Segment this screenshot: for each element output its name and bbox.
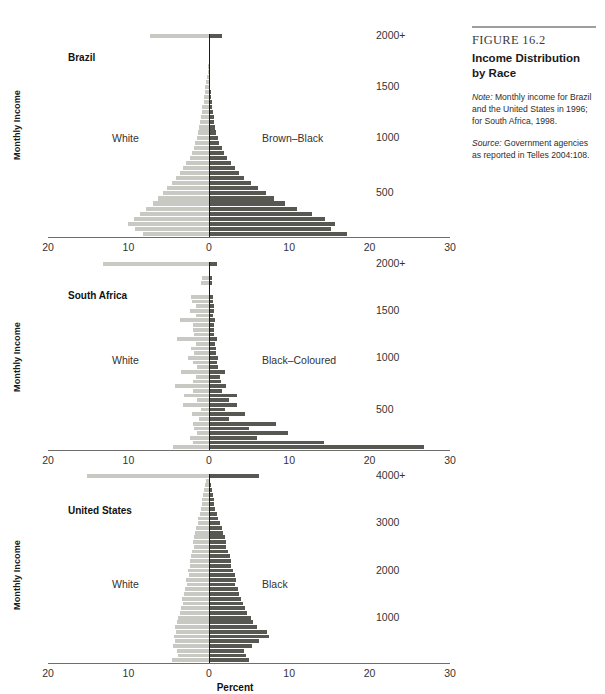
income-tick-label: 500: [376, 186, 394, 198]
bar-left: [183, 166, 209, 170]
bar-right: [209, 232, 347, 236]
bar-left: [192, 412, 209, 416]
bar-left: [194, 545, 209, 549]
bar-left: [192, 151, 209, 155]
bar-left: [183, 602, 209, 606]
income-tick-label: 1500: [376, 304, 399, 316]
bar-left: [191, 295, 209, 299]
bar-right: [209, 654, 246, 658]
bar-left: [199, 417, 209, 421]
bar-left: [175, 639, 209, 643]
bar-left: [188, 356, 209, 360]
bar-left: [196, 342, 209, 346]
bar-right: [209, 441, 324, 445]
bar-left: [190, 436, 209, 440]
bar-right: [209, 181, 251, 185]
bar-right: [209, 375, 220, 379]
bar-left: [193, 422, 209, 426]
bar-left: [193, 361, 209, 365]
bar-right: [209, 356, 218, 360]
bar-right: [209, 347, 216, 351]
bar-right: [209, 217, 326, 221]
bar-left: [180, 611, 209, 615]
zero-axis-line: [209, 262, 210, 450]
bar-left: [150, 34, 209, 38]
figure-number: FIGURE 16.2: [472, 33, 596, 49]
bar-right: [209, 389, 222, 393]
bar-right: [209, 639, 259, 643]
bar-left: [196, 304, 209, 308]
panel-country-title: United States: [68, 505, 132, 516]
bar-right: [209, 136, 218, 140]
bar-right: [209, 370, 225, 374]
bar-left: [198, 521, 209, 525]
bar-left: [167, 186, 209, 190]
bar-left: [185, 587, 209, 591]
y-axis-title: Monthly Income: [12, 322, 22, 392]
x-tick-label: 0: [206, 667, 212, 679]
bar-right: [209, 34, 222, 38]
income-tick-label: 2000+: [376, 257, 406, 269]
bar-right: [209, 427, 249, 431]
bar-right: [209, 161, 231, 165]
bar-right: [209, 630, 267, 634]
series-label-left: White: [112, 578, 139, 590]
page-text-bleed: [150, 0, 480, 6]
bar-right: [209, 578, 236, 582]
bar-left: [189, 573, 209, 577]
bar-right: [209, 201, 285, 205]
bar-left: [191, 347, 209, 351]
bar-right: [209, 559, 232, 563]
bar-left: [193, 323, 209, 327]
bar-right: [209, 151, 224, 155]
income-tick-label: 500: [376, 403, 394, 415]
bar-left: [197, 365, 209, 369]
income-tick-label: 2000+: [376, 29, 406, 41]
bar-right: [209, 227, 331, 231]
bar-left: [180, 171, 209, 175]
panel-country-title: Brazil: [68, 52, 95, 63]
bar-left: [103, 262, 209, 266]
series-label-right: Black: [262, 578, 288, 590]
bar-right: [209, 602, 243, 606]
bar-right: [209, 616, 251, 620]
bar-left: [194, 351, 208, 355]
bar-left: [200, 512, 209, 516]
bar-left: [188, 569, 209, 573]
bar-left: [87, 474, 209, 478]
bar-left: [193, 380, 209, 384]
bar-left: [201, 115, 209, 119]
bar-left: [174, 635, 209, 639]
bar-left: [173, 644, 208, 648]
bar-right: [209, 212, 312, 216]
bar-left: [195, 141, 209, 145]
panel-country-title: South Africa: [68, 290, 127, 301]
bar-right: [209, 644, 252, 648]
income-tick-label: 1000: [376, 131, 399, 143]
bar-left: [181, 370, 209, 374]
bar-left: [180, 318, 209, 322]
bar-right: [209, 156, 227, 160]
bar-left: [198, 517, 208, 521]
bar-right: [209, 222, 335, 226]
x-axis-line: [48, 663, 450, 664]
income-tick-label: 1000: [376, 351, 399, 363]
bar-left: [191, 554, 209, 558]
zero-axis-line: [209, 34, 210, 237]
zero-axis-line: [209, 474, 210, 663]
bar-right: [209, 526, 222, 530]
bar-left: [175, 384, 209, 388]
bar-left: [175, 625, 209, 629]
figure-container: FIGURE 16.2 Income Distribution by Race …: [0, 0, 605, 694]
bar-right: [209, 573, 235, 577]
bar-left: [163, 191, 209, 195]
bar-left: [178, 654, 209, 658]
bar-left: [183, 403, 209, 407]
bar-left: [140, 212, 208, 216]
bar-left: [176, 630, 209, 634]
bar-left: [193, 540, 209, 544]
bar-right: [209, 166, 235, 170]
bar-left: [153, 201, 209, 205]
y-axis-title: Monthly Income: [12, 90, 22, 160]
bar-left: [184, 592, 209, 596]
